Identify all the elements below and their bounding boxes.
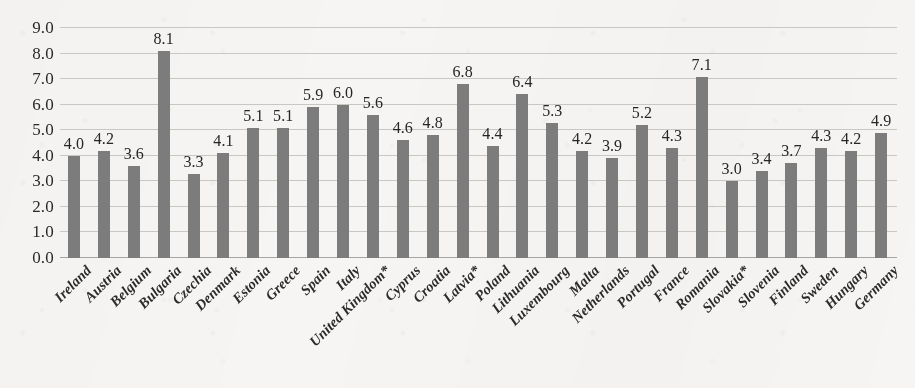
bar[interactable] bbox=[487, 146, 499, 258]
bar[interactable] bbox=[516, 94, 528, 258]
gridline bbox=[60, 104, 897, 105]
bar-value-label: 4.0 bbox=[64, 135, 84, 153]
bar-chart: 0.01.02.03.04.05.06.07.08.09.0 4.04.23.6… bbox=[0, 0, 915, 388]
bar-value-label: 4.1 bbox=[213, 132, 233, 150]
bar-value-label: 5.1 bbox=[273, 107, 293, 125]
y-tick-label: 9.0 bbox=[32, 18, 54, 38]
bar[interactable] bbox=[666, 148, 678, 258]
gridline bbox=[60, 129, 897, 130]
bar[interactable] bbox=[606, 158, 618, 258]
y-tick-label: 6.0 bbox=[32, 95, 54, 115]
bar-value-label: 4.2 bbox=[841, 130, 861, 148]
y-tick-label: 3.0 bbox=[32, 171, 54, 191]
bar[interactable] bbox=[726, 181, 738, 258]
bar-value-label: 6.8 bbox=[452, 63, 472, 81]
y-tick-label: 2.0 bbox=[32, 197, 54, 217]
bar[interactable] bbox=[68, 156, 80, 258]
gridline bbox=[60, 53, 897, 54]
y-tick-label: 1.0 bbox=[32, 222, 54, 242]
bar[interactable] bbox=[98, 151, 110, 258]
bar-value-label: 3.6 bbox=[124, 145, 144, 163]
gridline bbox=[60, 231, 897, 232]
bar-value-label: 7.1 bbox=[692, 56, 712, 74]
bar[interactable] bbox=[337, 105, 349, 258]
bar[interactable] bbox=[457, 84, 469, 258]
bar-value-label: 5.9 bbox=[303, 86, 323, 104]
bar-value-label: 5.6 bbox=[363, 94, 383, 112]
bar[interactable] bbox=[576, 151, 588, 258]
bar-value-label: 3.7 bbox=[781, 142, 801, 160]
bar[interactable] bbox=[397, 140, 409, 258]
bar[interactable] bbox=[427, 135, 439, 258]
bar[interactable] bbox=[217, 153, 229, 258]
bar[interactable] bbox=[158, 51, 170, 258]
bar-value-label: 4.2 bbox=[572, 130, 592, 148]
bar[interactable] bbox=[845, 151, 857, 258]
bar[interactable] bbox=[128, 166, 140, 258]
bar[interactable] bbox=[307, 107, 319, 258]
gridline bbox=[60, 27, 897, 28]
bar-value-label: 3.9 bbox=[602, 137, 622, 155]
bar-value-label: 4.8 bbox=[423, 114, 443, 132]
bar-value-label: 4.4 bbox=[482, 125, 502, 143]
y-tick-label: 0.0 bbox=[32, 248, 54, 268]
gridline bbox=[60, 206, 897, 207]
bar[interactable] bbox=[636, 125, 648, 258]
bar-value-label: 3.0 bbox=[721, 160, 741, 178]
bar[interactable] bbox=[188, 174, 200, 258]
bar[interactable] bbox=[546, 123, 558, 258]
bar[interactable] bbox=[756, 171, 768, 258]
bar[interactable] bbox=[785, 163, 797, 258]
y-tick-label: 7.0 bbox=[32, 69, 54, 89]
bar[interactable] bbox=[247, 128, 259, 258]
plot-area: 4.04.23.68.13.34.15.15.15.96.05.64.64.86… bbox=[60, 28, 897, 258]
gridline bbox=[60, 257, 897, 258]
bar-value-label: 8.1 bbox=[154, 30, 174, 48]
bar-value-label: 5.3 bbox=[542, 102, 562, 120]
y-axis: 0.01.02.03.04.05.06.07.08.09.0 bbox=[0, 28, 54, 258]
bar[interactable] bbox=[815, 148, 827, 258]
bar-value-label: 4.9 bbox=[871, 112, 891, 130]
bar-value-label: 5.1 bbox=[243, 107, 263, 125]
bar-value-label: 3.3 bbox=[183, 153, 203, 171]
bar-value-label: 4.3 bbox=[662, 127, 682, 145]
bar-value-label: 4.3 bbox=[811, 127, 831, 145]
bar[interactable] bbox=[696, 77, 708, 258]
bar[interactable] bbox=[277, 128, 289, 258]
y-tick-label: 5.0 bbox=[32, 120, 54, 140]
y-tick-label: 4.0 bbox=[32, 146, 54, 166]
bar-value-label: 5.2 bbox=[632, 104, 652, 122]
bar-value-label: 3.4 bbox=[751, 150, 771, 168]
gridline bbox=[60, 78, 897, 79]
bar-value-label: 4.6 bbox=[393, 119, 413, 137]
bar-value-label: 6.0 bbox=[333, 84, 353, 102]
x-axis-labels: IrelandAustriaBelgiumBulgariaCzechiaDenm… bbox=[60, 262, 897, 382]
bar[interactable] bbox=[875, 133, 887, 258]
bar-value-label: 4.2 bbox=[94, 130, 114, 148]
bar-value-label: 6.4 bbox=[512, 73, 532, 91]
bar[interactable] bbox=[367, 115, 379, 258]
y-tick-label: 8.0 bbox=[32, 44, 54, 64]
gridline bbox=[60, 180, 897, 181]
